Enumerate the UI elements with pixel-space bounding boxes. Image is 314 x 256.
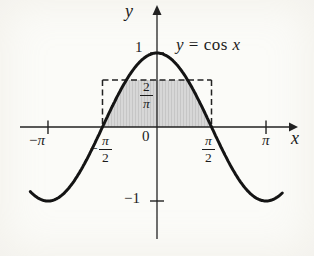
- x-tick-label-pi: π: [262, 133, 270, 148]
- equation-rhs: x: [233, 35, 241, 54]
- y-tick-label-1: 1: [135, 40, 143, 55]
- avg-height-numerator: 2: [140, 80, 153, 95]
- rectangle-height-label: 2 π: [140, 80, 153, 111]
- half-pi-denominator: 2: [202, 149, 215, 165]
- neg-half-pi-fraction: π 2: [99, 134, 112, 165]
- neg-pi-symbol: π: [37, 132, 45, 148]
- neg-half-pi-sign: −: [90, 142, 98, 156]
- avg-height-denominator: π: [140, 95, 153, 111]
- curve-equation-label: y = cos x: [176, 36, 241, 53]
- equation-operator: = cos: [184, 35, 233, 54]
- avg-height-fraction: 2 π: [140, 80, 153, 111]
- x-tick-label-neg-pi: −π: [29, 133, 45, 148]
- half-pi-fraction: π 2: [202, 134, 215, 165]
- neg-half-pi-numerator: π: [99, 134, 112, 149]
- equation-lhs: y: [176, 35, 184, 54]
- origin-label: 0: [142, 129, 150, 144]
- cosine-average-value-figure: [0, 0, 314, 256]
- y-axis-label: y: [125, 2, 133, 20]
- x-tick-label-half-pi: π 2: [202, 134, 215, 165]
- x-tick-label-neg-half-pi: − π 2: [90, 134, 112, 165]
- half-pi-numerator: π: [202, 134, 215, 149]
- y-tick-label-neg-1: −1: [124, 191, 140, 206]
- neg-half-pi-denominator: 2: [99, 149, 112, 165]
- figure-canvas: y x y = cos x 1 −1 0 −π π − π 2 π 2 2 π: [0, 0, 314, 256]
- y-axis-arrowhead-icon: [153, 5, 162, 15]
- x-axis-label: x: [291, 129, 299, 147]
